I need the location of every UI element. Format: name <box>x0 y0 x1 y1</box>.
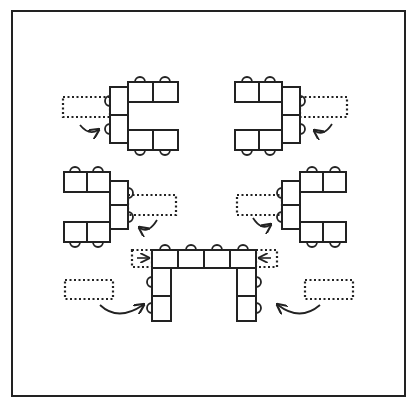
table <box>128 130 153 150</box>
curved-arrow-icon <box>278 305 320 314</box>
table-group-mid-right-c <box>237 167 346 247</box>
curved-arrow-icon <box>140 220 157 230</box>
table <box>110 205 128 229</box>
table <box>300 222 323 242</box>
table-group-top-left-c <box>63 77 178 155</box>
table <box>259 82 282 102</box>
dotted-table-position <box>305 280 353 299</box>
table <box>235 130 259 150</box>
curved-arrow-icon <box>80 125 98 132</box>
table <box>235 82 259 102</box>
table <box>152 268 171 296</box>
dotted-table-position <box>128 195 176 215</box>
table <box>152 250 178 268</box>
outer-frame <box>12 11 405 396</box>
table <box>300 172 323 192</box>
table <box>153 130 178 150</box>
table <box>110 87 128 115</box>
table-group-bottom-u <box>65 245 353 321</box>
table <box>237 296 256 321</box>
table <box>230 250 256 268</box>
table <box>282 205 300 229</box>
table <box>128 82 153 102</box>
table <box>323 172 346 192</box>
dotted-table-position <box>300 97 347 117</box>
table-group-top-right-c <box>235 77 347 155</box>
table <box>237 268 256 296</box>
table <box>87 172 110 192</box>
curved-arrow-icon <box>253 218 270 227</box>
table <box>282 115 300 143</box>
table <box>323 222 346 242</box>
table <box>64 172 87 192</box>
table <box>204 250 230 268</box>
table <box>152 296 171 321</box>
table-groups <box>63 77 353 321</box>
table <box>110 115 128 143</box>
table-group-mid-left-c <box>64 167 176 247</box>
dotted-table-position <box>63 97 110 117</box>
table <box>87 222 110 242</box>
table <box>259 130 282 150</box>
table <box>64 222 87 242</box>
dotted-table-position <box>237 195 282 215</box>
table <box>110 181 128 205</box>
curved-arrow-icon <box>100 305 143 314</box>
curved-arrow-icon <box>315 124 332 133</box>
table <box>178 250 204 268</box>
table <box>282 181 300 205</box>
dotted-table-position <box>65 280 113 299</box>
table <box>282 87 300 115</box>
table <box>153 82 178 102</box>
classroom-layout-diagram <box>0 0 413 409</box>
